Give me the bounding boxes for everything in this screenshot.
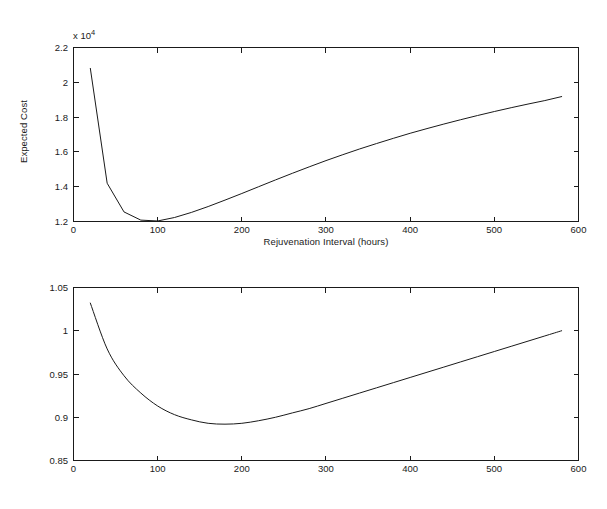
x-tick-label: 100 bbox=[150, 463, 166, 474]
y-tick-label: 0.85 bbox=[50, 455, 69, 466]
y-tick-label: 1.6 bbox=[55, 146, 68, 157]
y-tick-label: 0.95 bbox=[50, 369, 69, 380]
x-tick-label: 400 bbox=[402, 224, 418, 235]
x-tick-labels-cost: 0 100 200 300 400 500 600 bbox=[71, 224, 587, 235]
plot-frame-downtime bbox=[74, 288, 579, 461]
y-tick-labels-downtime: 0.85 0.9 0.95 1 1.05 bbox=[50, 282, 69, 466]
x-tick-label: 300 bbox=[318, 463, 334, 474]
x-tick-label: 500 bbox=[486, 224, 502, 235]
exponent-mantissa: x 10 bbox=[73, 30, 91, 41]
y-tick-labels-cost: 1.2 1.4 1.6 1.8 2 2.2 bbox=[55, 42, 68, 227]
y-tick-marks-cost bbox=[74, 48, 579, 222]
figure-expected-cost: x 104 Expected Cost bbox=[0, 0, 607, 255]
plot-frame-cost bbox=[74, 48, 579, 222]
x-tick-labels-downtime: 0 100 200 300 400 500 600 bbox=[71, 463, 587, 474]
data-line-expected-downtime bbox=[90, 303, 561, 424]
y-tick-label: 1.05 bbox=[50, 282, 69, 293]
x-tick-label: 100 bbox=[150, 224, 166, 235]
y-tick-label: 1.4 bbox=[55, 181, 68, 192]
x-tick-marks-cost bbox=[74, 48, 579, 222]
y-tick-label: 1.8 bbox=[55, 112, 68, 123]
y-tick-label: 2 bbox=[63, 77, 68, 88]
x-tick-label: 0 bbox=[71, 224, 76, 235]
x-tick-label: 400 bbox=[402, 463, 418, 474]
y-axis-title-cost: Expected Cost bbox=[18, 87, 29, 177]
x-tick-marks-downtime bbox=[74, 288, 579, 461]
x-axis-title-cost: Rejuvenation Interval (hours) bbox=[73, 236, 579, 247]
data-line-expected-cost bbox=[90, 68, 561, 221]
y-tick-label: 1.2 bbox=[55, 216, 68, 227]
y-tick-label: 0.9 bbox=[55, 412, 68, 423]
x-tick-label: 600 bbox=[571, 224, 587, 235]
x-tick-label: 500 bbox=[486, 463, 502, 474]
figure-expected-downtime: Expected Downtime bbox=[0, 255, 607, 509]
y-axis-exponent-label: x 104 bbox=[73, 28, 95, 41]
x-tick-label: 300 bbox=[318, 224, 334, 235]
plot-area-expected-downtime: 0 100 200 300 400 500 600 0.85 0.9 0.95 … bbox=[0, 255, 607, 509]
chart-page: x 104 Expected Cost bbox=[0, 0, 607, 509]
y-tick-marks-downtime bbox=[74, 288, 579, 461]
x-tick-label: 200 bbox=[234, 224, 250, 235]
exponent-power: 4 bbox=[91, 28, 95, 37]
x-tick-label: 0 bbox=[71, 463, 76, 474]
y-tick-label: 1 bbox=[63, 325, 68, 336]
y-tick-label: 2.2 bbox=[55, 42, 68, 53]
x-tick-label: 600 bbox=[571, 463, 587, 474]
x-tick-label: 200 bbox=[234, 463, 250, 474]
